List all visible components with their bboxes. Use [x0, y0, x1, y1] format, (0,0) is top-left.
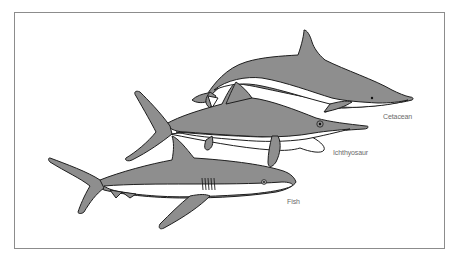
cetacean-label: Cetacean — [383, 113, 412, 120]
fish-label: Fish — [287, 198, 300, 205]
fish-drawing — [49, 136, 297, 229]
ichthyosaur-label: Ichthyosaur — [333, 149, 368, 156]
convergent-evolution-illustration — [0, 0, 457, 260]
